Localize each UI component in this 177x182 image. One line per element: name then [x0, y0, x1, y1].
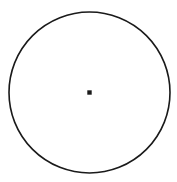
sector-circle-diagram [0, 0, 177, 182]
circle-center-point [87, 90, 91, 94]
figure-canvas [0, 0, 177, 182]
